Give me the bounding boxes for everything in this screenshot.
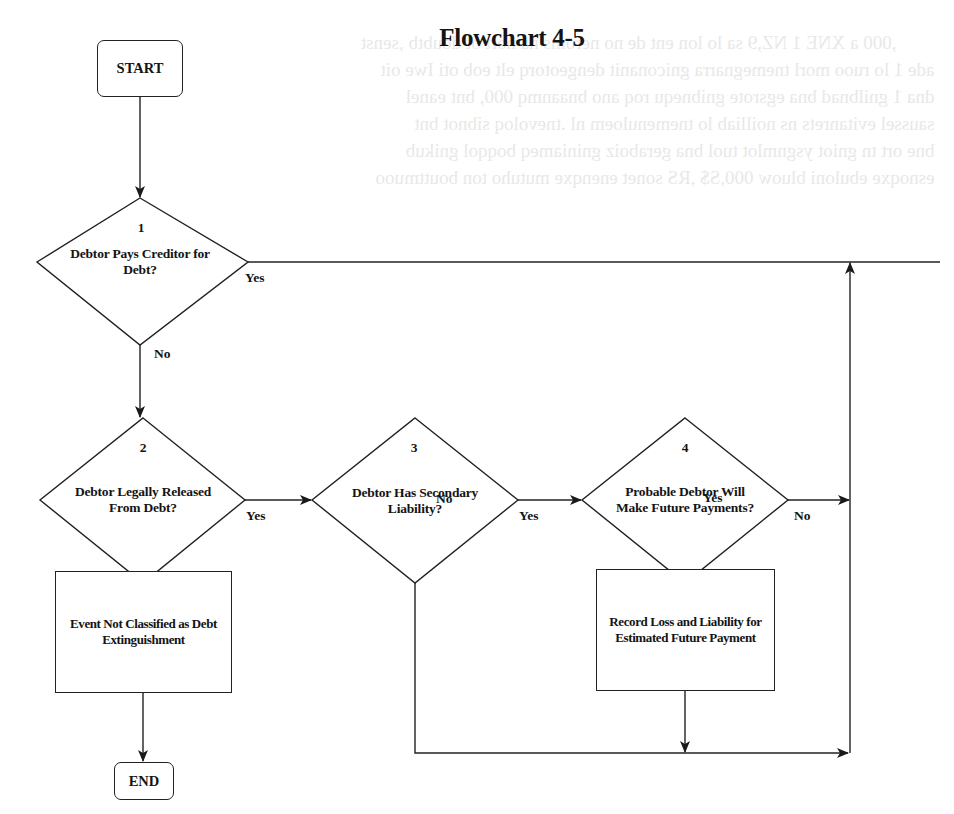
decision-4-text: Probable Debtor Will Make Future Payment… <box>595 484 775 516</box>
decision-4-no-label: No <box>794 508 811 524</box>
decision-4-number: 4 <box>675 440 695 456</box>
decision-1-number: 1 <box>131 220 151 236</box>
decision-2-line1: Debtor Legally Released <box>53 484 233 500</box>
decision-3-text: Debtor Has Secondary Liability? <box>325 485 505 517</box>
process-1-line1: Event Not Classified as Debt <box>70 616 217 632</box>
decision-1-text: Debtor Pays Creditor for Debt? <box>50 246 230 278</box>
process-event-not-classified: Event Not Classified as Debt Extinguishm… <box>55 571 232 693</box>
end-terminal: END <box>114 762 174 800</box>
decision-3-yes-label: Yes <box>519 508 539 524</box>
decision-1-no-label: No <box>154 346 171 362</box>
decision-4-line1: Probable Debtor Will <box>595 484 775 500</box>
decision-4-line2: Make Future Payments? <box>595 500 775 516</box>
decision-2-yes-label: Yes <box>246 508 266 524</box>
decision-2-number: 2 <box>133 440 153 456</box>
process-2-line1: Record Loss and Liability for <box>609 614 761 630</box>
process-record-loss-liability: Record Loss and Liability for Estimated … <box>596 569 775 691</box>
decision-4-yes-label: Yes <box>703 490 723 506</box>
decision-2-line2: From Debt? <box>53 500 233 516</box>
start-terminal: START <box>97 40 183 97</box>
decision-1-line1: Debtor Pays Creditor for <box>50 246 230 262</box>
start-label: START <box>117 60 164 77</box>
process-2-line2: Estimated Future Payment <box>609 630 761 646</box>
decision-1-yes-label: Yes <box>245 270 265 286</box>
decision-3-no-label: No <box>436 491 453 507</box>
end-label: END <box>129 773 160 790</box>
decision-2-text: Debtor Legally Released From Debt? <box>53 484 233 516</box>
decision-3-number: 3 <box>404 440 424 456</box>
decision-3-line2: Liability? <box>325 501 505 517</box>
process-1-line2: Extinguishment <box>70 632 217 648</box>
decision-1-line2: Debt? <box>50 262 230 278</box>
decision-3-line1: Debtor Has Secondary <box>325 485 505 501</box>
